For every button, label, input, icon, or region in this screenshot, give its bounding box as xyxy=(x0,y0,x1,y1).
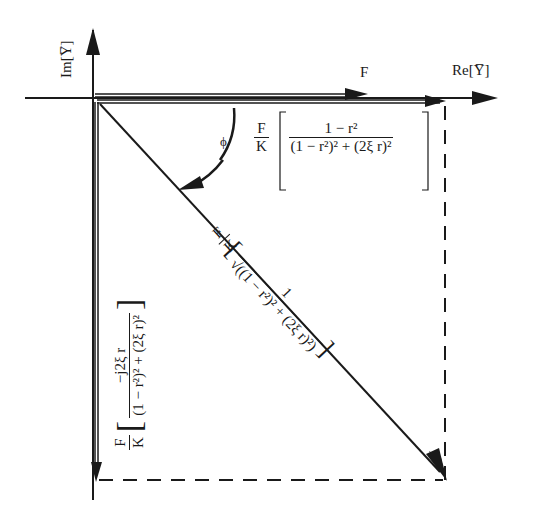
real-part-fraction: 1 − r² (1 − r²)² + (2ξ r)² xyxy=(289,120,394,155)
force-text: F xyxy=(360,64,368,80)
real-axis-text: Re[Y̅] xyxy=(452,62,490,78)
real-axis-label: Re[Y̅] xyxy=(452,62,490,79)
force-label: F xyxy=(360,64,368,81)
imag-part-prefix: F K xyxy=(112,435,147,450)
prefix-denominator: K xyxy=(254,137,269,155)
imag-part-fraction: −j2ξ r (1 − r²)² + (2ξ r)² xyxy=(112,313,147,418)
real-part-numerator: 1 − r² xyxy=(323,120,360,137)
real-part-prefix: F K xyxy=(254,120,269,155)
imaginary-part-expression: F K [ −j2ξ r (1 − r²)² + (2ξ r)² ] xyxy=(110,299,148,450)
prefix-numerator: F xyxy=(255,120,267,137)
real-part-denominator: (1 − r²)² + (2ξ r)² xyxy=(289,137,394,155)
imaginary-axis-text: Im[Y̅] xyxy=(58,41,74,79)
imag-part-denominator: (1 − r²)² + (2ξ r)² xyxy=(129,313,147,418)
real-part-expression: F K 1 − r² (1 − r²)² + (2ξ r)² xyxy=(254,120,393,155)
left-bracket: [ xyxy=(110,421,148,432)
right-bracket: ] xyxy=(110,299,148,310)
phase-text: ϕ xyxy=(220,134,227,149)
prefix-numerator: F xyxy=(112,436,129,448)
imaginary-axis-label: Im[Y̅] xyxy=(58,41,75,79)
phasor-diagram: Im[Y̅] Re[Y̅] F ϕ F K 1 − r² (1 − r²)² +… xyxy=(0,0,533,520)
imag-part-numerator: −j2ξ r xyxy=(112,346,129,386)
prefix-denominator: K xyxy=(129,435,147,450)
phase-label: ϕ xyxy=(220,134,227,150)
